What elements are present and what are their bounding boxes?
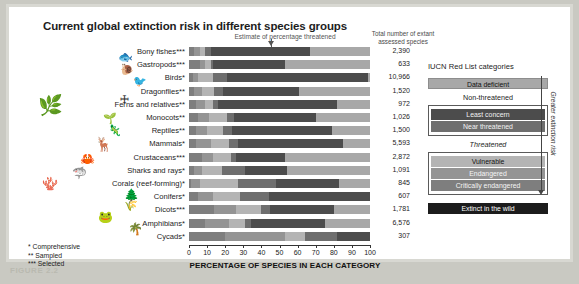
bar-segment-least-concern: [236, 153, 285, 162]
legend-header-threatened: Threatened: [428, 140, 548, 149]
bar-segment-endangered: [196, 139, 210, 148]
axis-tick-label-10: 10: [197, 249, 217, 256]
total-species-count: 1,091: [374, 166, 410, 173]
axis-tick-30: [243, 245, 244, 248]
bar-segment-data-deficient: [339, 179, 370, 188]
bar-row[interactable]: [189, 60, 370, 69]
category-label: Sharks and rays*: [45, 166, 185, 175]
axis-tick-40: [261, 245, 262, 248]
bar-row[interactable]: [189, 192, 370, 201]
axis-tick-label-90: 90: [342, 249, 362, 256]
bar-row[interactable]: [189, 113, 370, 122]
total-species-count: 307: [374, 232, 410, 239]
bar-segment-data-deficient: [332, 126, 370, 135]
bar-row[interactable]: [189, 205, 370, 214]
extinction-risk-arrow-line: [541, 76, 542, 192]
legend-group-non-threatened: Least concern Near threatened: [428, 105, 548, 136]
bar-segment-data-deficient: [337, 100, 370, 109]
bar-row[interactable]: [189, 87, 370, 96]
legend-chip-vulnerable[interactable]: Vulnerable: [431, 156, 545, 167]
bar-segment-least-concern: [223, 87, 299, 96]
chart-title: Current global extinction risk in differ…: [0, 20, 390, 32]
bar-segment-critically-endangered: [189, 192, 198, 201]
bar-row[interactable]: [189, 179, 370, 188]
bar-row[interactable]: [189, 126, 370, 135]
total-species-count: 633: [374, 60, 410, 67]
bar-segment-data-deficient: [299, 87, 370, 96]
legend-chip-least-concern[interactable]: Least concern: [431, 109, 545, 120]
total-species-count: 1,026: [374, 113, 410, 120]
total-species-count: 845: [374, 179, 410, 186]
bar-segment-least-concern: [269, 192, 370, 201]
bar-segment-endangered: [191, 179, 200, 188]
bar-segment-vulnerable: [229, 219, 245, 228]
bar-segment-vulnerable: [202, 87, 215, 96]
bar-segment-endangered: [225, 232, 285, 241]
axis-tick-60: [298, 245, 299, 248]
bar-segment-vulnerable: [198, 73, 212, 82]
icon-dicot: 🌾: [124, 199, 138, 212]
legend-chip-data-deficient[interactable]: Data deficient: [428, 78, 548, 89]
axis-tick-70: [316, 245, 317, 248]
bar-row[interactable]: [189, 100, 370, 109]
axis-tick-label-40: 40: [251, 249, 271, 256]
bar-segment-near-threatened: [238, 179, 276, 188]
bar-segment-data-deficient: [316, 113, 370, 122]
bar-segment-vulnerable: [211, 139, 229, 148]
axis-tick-50: [280, 245, 281, 248]
bar-segment-critically-endangered: [189, 60, 200, 69]
bar-segment-vulnerable: [207, 126, 223, 135]
bar-segment-vulnerable: [202, 166, 222, 175]
bar-segment-critically-endangered: [189, 100, 196, 109]
bar-segment-near-threatened: [214, 87, 223, 96]
bar-segment-near-threatened: [222, 166, 246, 175]
bar-row[interactable]: [189, 153, 370, 162]
bar-segment-critically-endangered: [189, 139, 196, 148]
total-species-count: 1,781: [374, 205, 410, 212]
totals-header-line2: assessed species: [378, 38, 428, 45]
bar-row[interactable]: [189, 139, 370, 148]
bar-segment-least-concern: [232, 126, 332, 135]
bar-segment-endangered: [202, 153, 213, 162]
axis-tick-label-60: 60: [288, 249, 308, 256]
bar-segment-endangered: [196, 126, 207, 135]
axis-tick-label-0: 0: [179, 249, 199, 256]
category-label: Gastropods***: [45, 60, 185, 69]
total-species-count: 607: [374, 192, 410, 199]
legend-chip-endangered[interactable]: Endangered: [431, 168, 545, 179]
bar-segment-least-concern: [218, 100, 337, 109]
bar-segment-vulnerable: [209, 113, 227, 122]
bar-row[interactable]: [189, 47, 370, 56]
category-label: Birds*: [45, 73, 185, 82]
icon-amphibian: 🐸: [98, 210, 113, 224]
bar-segment-least-concern: [211, 47, 311, 56]
icon-crustacean: 🦀: [80, 152, 95, 166]
legend-chip-near-threatened[interactable]: Near threatened: [431, 121, 545, 132]
bar-row[interactable]: [189, 232, 370, 241]
bar-segment-data-deficient: [368, 73, 370, 82]
legend-chip-critically-endangered[interactable]: Critically endangered: [431, 180, 545, 191]
bar-segment-vulnerable: [213, 153, 231, 162]
footnote-item: * Comprehensive: [28, 243, 80, 250]
legend-chip-extinct-in-the-wild[interactable]: Extinct in the wild: [428, 203, 548, 214]
bar-row[interactable]: [189, 73, 370, 82]
gridline-100: [370, 47, 371, 245]
bar-segment-critically-endangered: [189, 205, 214, 214]
total-species-count: 1,500: [374, 126, 410, 133]
bar-row[interactable]: [189, 166, 370, 175]
legend-group-threatened: Vulnerable Endangered Critically endange…: [428, 152, 548, 195]
axis-tick-label-50: 50: [270, 249, 290, 256]
icon-mammal: 🦌: [95, 136, 112, 152]
bar-segment-endangered: [194, 166, 201, 175]
bar-segment-endangered: [198, 113, 209, 122]
bar-row[interactable]: [189, 219, 370, 228]
total-species-count: 6,576: [374, 219, 410, 226]
bar-segment-near-threatened: [261, 205, 270, 214]
total-species-count: 972: [374, 100, 410, 107]
bar-segment-least-concern: [238, 139, 343, 148]
icon-gastropod: 🐌: [120, 63, 134, 76]
bar-segment-critically-endangered: [189, 113, 198, 122]
icon-bony-fish: 🐟: [118, 50, 133, 64]
bar-segment-critically-endangered: [189, 232, 225, 241]
total-species-count: 2,390: [374, 47, 410, 54]
